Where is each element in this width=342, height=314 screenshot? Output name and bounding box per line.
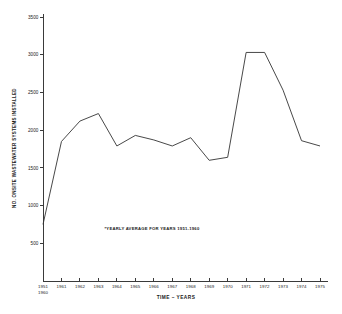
x-tick-label: 1970 (223, 284, 233, 289)
y-tick-label: 2500 (28, 90, 39, 95)
y-tick-label: 1500 (28, 166, 39, 171)
x-tick-label: 1962 (75, 284, 85, 289)
x-tick-label: 1963 (93, 284, 103, 289)
x-tick-label: 1967 (167, 284, 177, 289)
data-series-line (43, 52, 320, 224)
x-tick-label: 1971 (241, 284, 251, 289)
x-tick-label: 1969 (204, 284, 214, 289)
x-tick-label: 1966 (149, 284, 159, 289)
y-axis-ticks: 500100015002000250030003500 (28, 15, 43, 246)
x-tick-label: 1972 (260, 284, 270, 289)
x-tick-label: 1964 (112, 284, 122, 289)
x-tick-label: 1973 (278, 284, 288, 289)
y-tick-label: 2000 (28, 128, 39, 133)
y-tick-label: 3000 (28, 52, 39, 57)
y-tick-label: 500 (31, 241, 39, 246)
x-axis-ticks: 1951196019611962196319641965196619671968… (38, 278, 325, 295)
y-tick-label: 1000 (28, 203, 39, 208)
x-axis-title: TIME – YEARS (157, 295, 196, 300)
x-tick-label: 1975 (315, 284, 325, 289)
x-tick-label: 1961 (56, 284, 66, 289)
line-chart-plot: 500100015002000250030003500 195119601961… (0, 0, 342, 314)
y-axis-title: NO. ONSITE WASTEWATER SYSTEMS INSTALLED (12, 88, 17, 208)
x-tick-label: 1974 (297, 284, 307, 289)
x-tick-label: 1968 (186, 284, 196, 289)
x-tick-label: 1965 (130, 284, 140, 289)
chart-container: 500100015002000250030003500 195119601961… (0, 0, 342, 314)
x-tick-label: 1951 (38, 284, 48, 289)
chart-annotation: *YEARLY AVERAGE FOR YEARS 1951-1960 (104, 226, 199, 231)
y-tick-label: 3500 (28, 15, 39, 20)
x-tick-sublabel: 1960 (38, 290, 48, 295)
